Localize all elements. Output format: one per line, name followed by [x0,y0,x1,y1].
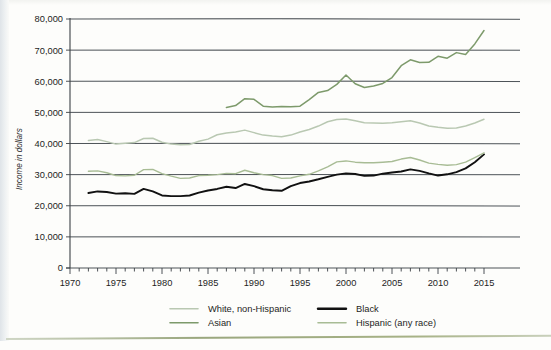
y-tick-label: 80,000 [35,14,63,24]
y-tick-label: 0 [58,263,63,273]
y-axis-ticks [66,19,70,268]
y-tick-label: 60,000 [35,77,63,87]
legend-label: White, non-Hispanic [208,304,292,314]
x-tick-label: 1995 [290,278,311,288]
x-axis-ticks [70,268,484,274]
y-tick-label: 10,000 [35,232,63,242]
data-series [88,31,484,197]
legend-label: Hispanic (any race) [356,318,436,328]
x-tick-label: 1980 [152,278,173,288]
gridline [70,81,520,82]
y-tick-label: 40,000 [35,139,63,149]
y-tick-label: 70,000 [35,46,63,56]
x-tick-label: 2015 [474,278,495,288]
series-line-white-non-hispanic [88,119,484,145]
gridline [70,19,520,20]
x-axis-tick-labels: 1970197519801985199019952000200520102015 [60,278,495,288]
legend-label: Black [356,304,379,314]
x-tick-label: 1975 [106,278,127,288]
legend-label: Asian [208,318,231,328]
chart-canvas: 80,00070,00060,00050,00040,00030,00020,0… [0,0,551,350]
gridline [70,143,520,144]
y-tick-label: 20,000 [35,201,63,211]
x-tick-label: 2010 [428,278,449,288]
series-line-black [88,154,484,196]
chart-legend: White, non-HispanicBlackAsianHispanic (a… [170,304,436,328]
series-line-asian [226,31,484,108]
y-axis-tick-labels: 80,00070,00060,00050,00040,00030,00020,0… [35,14,63,273]
x-tick-label: 2005 [382,278,403,288]
y-axis-title: Income in dollars [15,128,24,190]
x-tick-label: 1990 [244,278,265,288]
x-tick-label: 2000 [336,278,357,288]
gridline [70,206,520,207]
y-tick-label: 30,000 [35,170,63,180]
x-tick-label: 1970 [60,278,81,288]
y-tick-label: 50,000 [35,108,63,118]
line-chart: 80,00070,00060,00050,00040,00030,00020,0… [0,0,551,350]
x-tick-label: 1985 [198,278,219,288]
